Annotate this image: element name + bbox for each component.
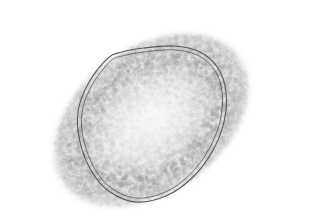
electron-micrograph-figure: Grayscale transmission electron microgra…: [40, 16, 262, 222]
micrograph-image: [40, 16, 262, 222]
